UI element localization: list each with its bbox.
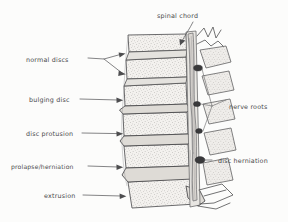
posterior-elements <box>197 27 236 209</box>
label-disc-protusion: disc protusion <box>26 130 73 138</box>
label-prolapse-herniation: prolapse/herniation <box>11 163 74 171</box>
compression-point-1 <box>194 65 203 71</box>
disc-bulging <box>120 104 191 114</box>
spine-diagram-canvas: normal discs bulging disc disc protusion… <box>0 0 288 222</box>
leader-normal-discs <box>88 52 126 76</box>
label-spinal-chord: spinal chord <box>157 12 198 20</box>
leader-disc-protusion <box>82 131 123 136</box>
disc-prolapse <box>122 166 197 182</box>
compression-point-2 <box>193 101 200 106</box>
label-extrusion: extrusion <box>44 192 75 200</box>
label-normal-discs: normal discs <box>26 56 69 64</box>
compression-point-3 <box>196 129 203 134</box>
spine-anatomy-group <box>120 27 237 209</box>
disc-protrusion <box>120 134 193 146</box>
spine-pathology-illustration: normal discs bulging disc disc protusion… <box>0 0 288 222</box>
leader-bulging-disc <box>80 98 123 103</box>
compression-point-4 <box>195 157 205 164</box>
label-bulging-disc: bulging disc <box>29 96 70 104</box>
leader-extrusion <box>83 194 126 199</box>
label-disc-herniation: disc herniation <box>218 157 268 165</box>
leader-prolapse-herniation <box>88 165 123 170</box>
label-nerve-roots: nerve roots <box>229 103 268 111</box>
